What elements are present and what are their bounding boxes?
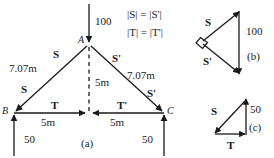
label-height-5m: 5m	[95, 77, 109, 88]
label-span-left-5m: 5m	[41, 117, 55, 128]
label-panel-b-vector-s: S	[205, 17, 211, 28]
label-point-a: A	[78, 35, 84, 45]
label-vector-s-upper: S	[53, 49, 59, 60]
label-load-100: 100	[95, 16, 112, 27]
label-reaction-right-50: 50	[142, 134, 153, 145]
label-panel-b-resultant-100: 100	[246, 26, 263, 37]
label-panel-c-resultant-50: 50	[250, 104, 261, 115]
force-diagram-figure: 100 A B C S S S' S' T T' 7.07m 7.07m 5m …	[0, 0, 274, 158]
label-vector-tprime: T'	[117, 100, 127, 111]
label-vector-s-lower: S	[21, 84, 27, 95]
label-panel-a-tag: (a)	[81, 138, 93, 149]
label-panel-b-tag: (b)	[247, 51, 260, 62]
label-reaction-left-50: 50	[24, 134, 35, 145]
label-panel-c-vector-t: T	[227, 140, 234, 151]
panel-c-force-triangle	[215, 99, 246, 135]
label-vector-t: T	[51, 100, 58, 111]
label-point-c: C	[167, 106, 174, 116]
equation-magnitude-t: |T| = |T'|	[127, 27, 163, 38]
label-panel-c-tag: (c)	[249, 122, 261, 133]
label-span-right-5m: 5m	[110, 117, 124, 128]
label-vector-sprime-lower: S'	[147, 88, 156, 99]
label-point-b: B	[2, 106, 8, 116]
label-length-right-member: 7.07m	[127, 70, 155, 81]
equation-magnitude-s: |S| = |S'|	[127, 9, 162, 20]
label-length-left-member: 7.07m	[9, 63, 37, 74]
label-panel-c-vector-s: S	[211, 106, 217, 117]
label-vector-sprime-upper: S'	[112, 53, 121, 64]
label-panel-b-vector-sprime: S'	[203, 56, 212, 67]
